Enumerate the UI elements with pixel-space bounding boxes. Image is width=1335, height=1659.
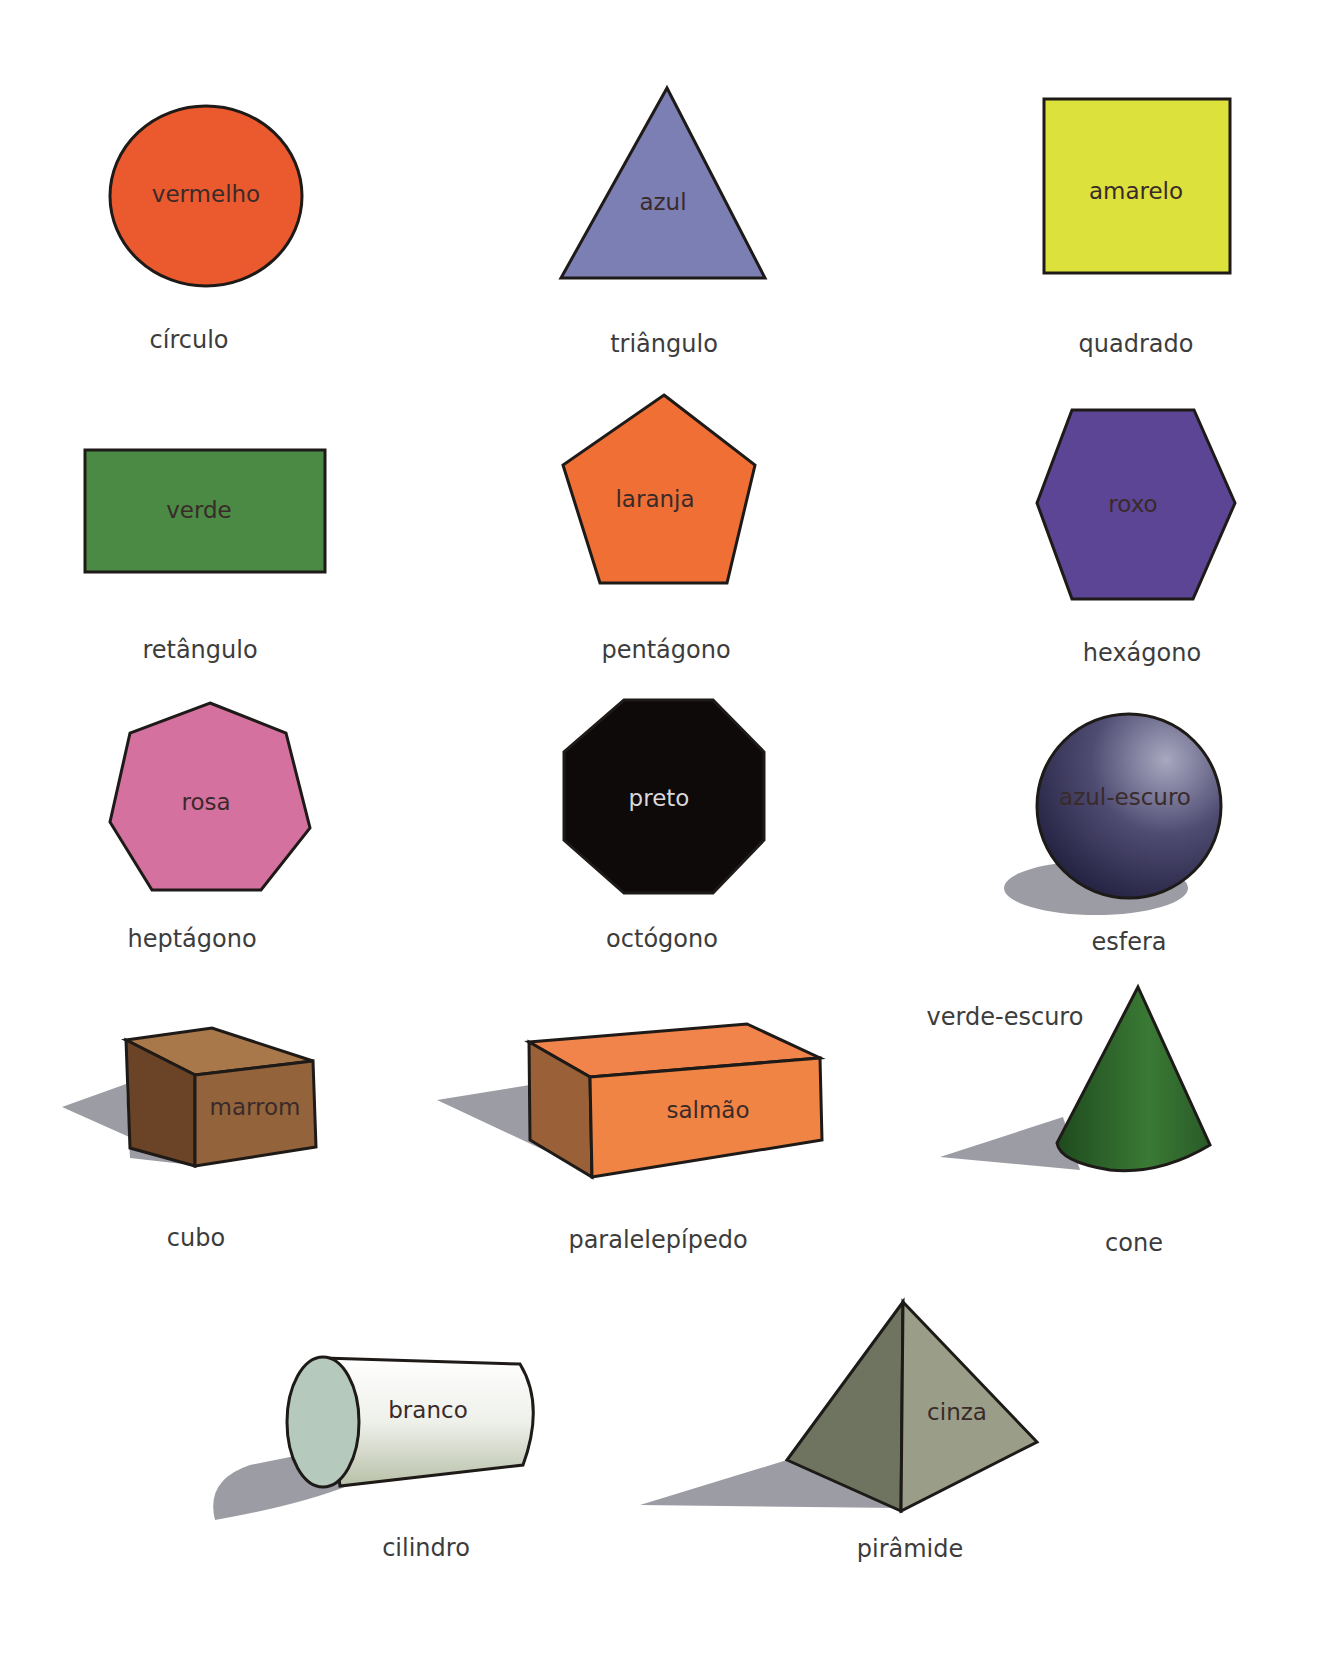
caption-cube: cubo — [167, 1224, 225, 1252]
caption-rectangle: retângulo — [142, 636, 257, 664]
cube-color-label: marrom — [210, 1094, 301, 1120]
cylinder-shape: branco — [213, 1357, 533, 1520]
rectangle-shape: verde — [85, 450, 325, 572]
octagon-color-label: preto — [629, 785, 690, 811]
circle-color-label: vermelho — [152, 181, 260, 207]
caption-cone: cone — [1105, 1229, 1163, 1257]
pyramid-color-label: cinza — [927, 1399, 987, 1425]
triangle-color-label: azul — [639, 189, 686, 215]
circle-shape: vermelho — [110, 106, 302, 286]
cuboid-color-label: salmão — [666, 1097, 749, 1123]
triangle-shape: azul — [561, 88, 765, 278]
pentagon-color-label: laranja — [615, 486, 694, 512]
pyramid-shape: cinza — [640, 1302, 1037, 1511]
shapes-canvas: vermelho azul amarelo verde laranja roxo… — [0, 0, 1335, 1659]
caption-cuboid: paralelepípedo — [568, 1226, 747, 1254]
caption-heptagon: heptágono — [127, 925, 256, 953]
pentagon-shape: laranja — [563, 395, 755, 583]
rectangle-color-label: verde — [166, 497, 232, 523]
sphere-color-label: azul-escuro — [1059, 784, 1191, 810]
caption-octagon: octógono — [606, 925, 718, 953]
caption-square: quadrado — [1079, 330, 1194, 358]
octagon-shape: preto — [564, 700, 764, 893]
hexagon-color-label: roxo — [1108, 491, 1157, 517]
caption-triangle: triângulo — [610, 330, 718, 358]
heptagon-shape: rosa — [110, 703, 310, 890]
caption-pyramid: pirâmide — [857, 1535, 964, 1563]
caption-sphere: esfera — [1091, 928, 1166, 956]
cuboid-shape: salmão — [437, 1024, 822, 1177]
caption-pentagon: pentágono — [601, 636, 730, 664]
hexagon-shape: roxo — [1037, 410, 1235, 599]
caption-hexagon: hexágono — [1083, 639, 1201, 667]
caption-circle: círculo — [150, 326, 229, 354]
cylinder-color-label: branco — [388, 1397, 467, 1423]
sphere-shape: azul-escuro — [1004, 714, 1221, 915]
heptagon-color-label: rosa — [181, 789, 230, 815]
cone-color-label: verde-escuro — [927, 1003, 1084, 1031]
cube-shape: marrom — [62, 1028, 316, 1166]
square-shape: amarelo — [1044, 99, 1230, 273]
square-color-label: amarelo — [1089, 178, 1183, 204]
caption-cylinder: cilindro — [382, 1534, 470, 1562]
